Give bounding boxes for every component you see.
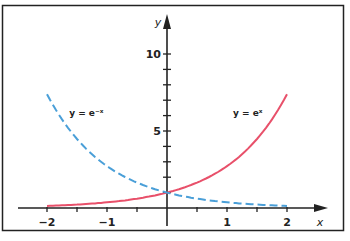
x-axis-label: x	[316, 216, 324, 229]
chart: −2−112510xyy = e⁻ˣy = eˣ	[0, 0, 350, 241]
chart-frame	[3, 6, 344, 231]
label-e-neg-x: y = e⁻ˣ	[69, 108, 104, 118]
y-axis-label: y	[154, 16, 162, 29]
x-tick-label: −2	[39, 216, 56, 229]
x-tick-label: 1	[223, 216, 231, 229]
y-tick-label: 5	[153, 125, 161, 138]
label-e-x: y = eˣ	[233, 108, 263, 118]
chart-canvas: −2−112510xyy = e⁻ˣy = eˣ	[0, 0, 350, 241]
y-tick-label: 10	[146, 48, 162, 61]
x-tick-label: 2	[283, 216, 291, 229]
x-tick-label: −1	[99, 216, 116, 229]
